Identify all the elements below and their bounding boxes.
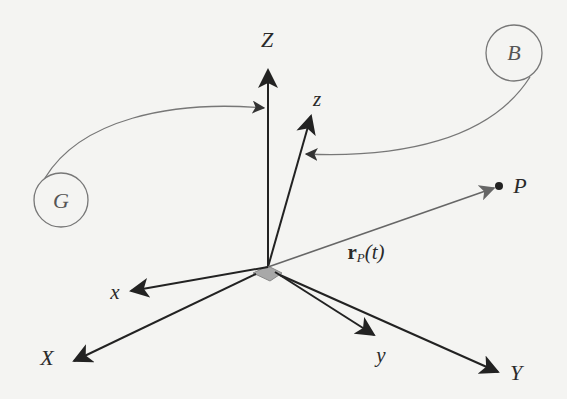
- diagram-svg: [0, 0, 567, 399]
- label-Y: Y: [510, 362, 522, 384]
- diagram-canvas: Z z x X y Y P G B rP(t): [0, 0, 567, 399]
- curve-G-to-Z: [45, 106, 264, 178]
- label-P: P: [513, 175, 526, 197]
- label-z: z: [313, 89, 321, 110]
- label-y: y: [376, 345, 385, 366]
- axis-y: [275, 272, 374, 335]
- axis-Y: [280, 275, 498, 372]
- vector-argument: (t): [365, 240, 385, 264]
- point-P-dot: [495, 182, 503, 190]
- label-B: B: [507, 42, 520, 64]
- axis-X: [74, 274, 256, 361]
- curve-B-to-z: [306, 77, 530, 155]
- label-Z: Z: [261, 29, 273, 51]
- label-X: X: [40, 347, 53, 369]
- label-G: G: [53, 190, 69, 212]
- axis-z: [268, 116, 311, 267]
- vector-symbol: r: [347, 240, 356, 264]
- label-x: x: [110, 282, 119, 303]
- label-position-vector: rP(t): [347, 242, 384, 264]
